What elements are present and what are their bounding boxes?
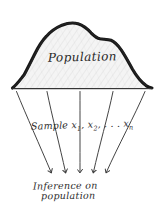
inference-label-line-2: population xyxy=(41,190,96,202)
diagram-root: Population Sample x1, x2, . . . xn Infer… xyxy=(0,0,163,212)
sample-label-prefix: Sample xyxy=(31,119,72,131)
sample-label-ellipsis: , . . . xyxy=(97,118,123,130)
population-label: Population xyxy=(48,49,117,64)
sample-label-xn-subscript: n xyxy=(129,123,134,131)
baseline-axis xyxy=(12,88,152,89)
